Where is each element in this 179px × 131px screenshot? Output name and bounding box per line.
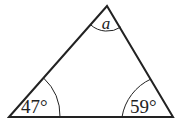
- angle-label-bottom-right: 59°: [130, 96, 157, 117]
- angle-label-top: a: [102, 14, 111, 33]
- triangle-diagram: a 47° 59°: [0, 0, 179, 131]
- angle-label-bottom-left: 47°: [21, 96, 48, 117]
